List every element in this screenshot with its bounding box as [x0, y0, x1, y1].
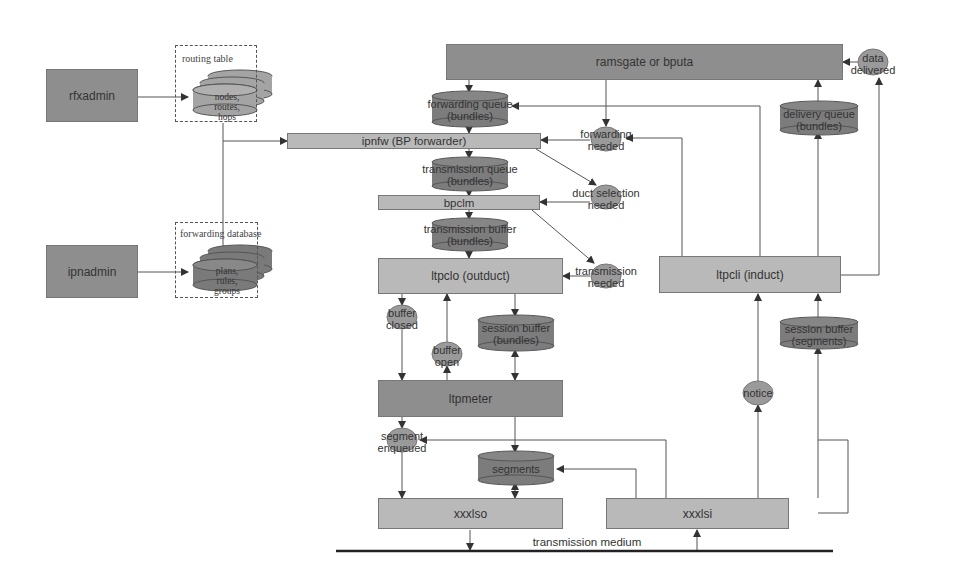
queue-sublabel: (bundles) [427, 110, 512, 122]
ipnadmin-box: ipnadmin [46, 245, 138, 298]
queue-label: session buffer [785, 323, 853, 335]
signal-forwarding-needed: forwarding needed [580, 128, 631, 152]
xxxlso-box: xxxlso [378, 498, 563, 529]
segments-queue: segments [492, 463, 540, 475]
signal-label: duct selection [572, 187, 639, 199]
queue-label: delivery queue [783, 108, 855, 120]
ltpcli-box: ltpcli (induct) [659, 256, 841, 293]
ltpclo-box: ltpclo (outduct) [378, 258, 563, 294]
queue-sublabel: (segments) [785, 335, 853, 347]
signal-label: segment [378, 430, 427, 442]
store-line: routes, [214, 102, 240, 112]
store-line: nodes, [214, 92, 240, 102]
ipnfw-box: ipnfw (BP forwarder) [287, 133, 541, 149]
queue-sublabel: (bundles) [422, 175, 517, 187]
routing-table-store: nodes, routes, hops [214, 92, 240, 122]
rfxadmin-box: rfxadmin [46, 69, 138, 122]
signal-label: data [851, 52, 896, 64]
store-line: hops [214, 112, 240, 122]
signal-notice: notice [743, 387, 772, 399]
signal-label: forwarding [580, 128, 631, 140]
forwarding-database-title: forwarding database [180, 228, 261, 239]
store-line: groups [214, 286, 240, 296]
signal-duct-selection-needed: duct selection needed [572, 187, 639, 211]
signal-label: needed [572, 199, 639, 211]
queue-label: forwarding queue [427, 98, 512, 110]
queue-sublabel: (bundles) [482, 334, 550, 346]
signal-data-delivered: data delivered [851, 52, 896, 76]
signal-label: buffer [386, 307, 418, 319]
store-line: rules, [214, 276, 240, 286]
queue-label: transmission queue [422, 163, 517, 175]
routing-table-title: routing table [182, 53, 233, 64]
signal-label: open [433, 356, 461, 368]
queue-sublabel: (bundles) [424, 235, 517, 247]
signal-transmission-needed: transmission needed [575, 265, 637, 289]
queue-label: session buffer [482, 322, 550, 334]
queue-sublabel: (bundles) [783, 120, 855, 132]
transmission-buffer: transmission buffer (bundles) [424, 223, 517, 247]
store-line: plans, [214, 266, 240, 276]
forwarding-database-store: plans, rules, groups [214, 266, 240, 296]
transmission-queue: transmission queue (bundles) [422, 163, 517, 187]
signal-buffer-closed: buffer closed [386, 307, 418, 331]
session-buffer-segments: session buffer (segments) [785, 323, 853, 347]
signal-segment-enqueued: segment enqueued [378, 430, 427, 454]
transmission-medium-label: transmission medium [533, 536, 642, 548]
signal-buffer-open: buffer open [433, 344, 461, 368]
signal-label: needed [580, 140, 631, 152]
signal-label: transmission [575, 265, 637, 277]
signal-label: closed [386, 319, 418, 331]
signal-label: needed [575, 277, 637, 289]
delivery-queue: delivery queue (bundles) [783, 108, 855, 132]
signal-label: buffer [433, 344, 461, 356]
session-buffer-bundles: session buffer (bundles) [482, 322, 550, 346]
xxxlsi-box: xxxlsi [606, 498, 789, 529]
bpclm-box: bpclm [378, 195, 540, 210]
queue-label: transmission buffer [424, 223, 517, 235]
signal-label: notice [743, 387, 772, 399]
signal-label: enqueued [378, 442, 427, 454]
app-box: ramsgate or bputa [446, 44, 843, 80]
signal-label: delivered [851, 64, 896, 76]
forwarding-queue: forwarding queue (bundles) [427, 98, 512, 122]
queue-label: segments [492, 463, 540, 475]
ltpmeter-box: ltpmeter [378, 380, 563, 417]
